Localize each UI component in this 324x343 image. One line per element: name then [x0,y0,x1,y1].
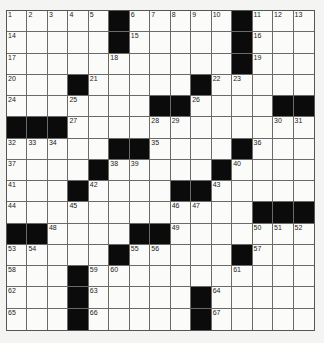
crossword-cell[interactable] [150,266,170,287]
crossword-cell[interactable] [109,181,129,202]
crossword-cell[interactable]: 49 [171,224,191,245]
crossword-cell[interactable] [212,266,232,287]
crossword-cell[interactable] [294,309,314,330]
crossword-cell[interactable] [253,181,273,202]
crossword-cell[interactable]: 14 [7,32,27,53]
crossword-cell[interactable] [89,117,109,138]
crossword-cell[interactable]: 64 [212,287,232,308]
crossword-cell[interactable]: 39 [130,160,150,181]
crossword-cell[interactable] [130,96,150,117]
crossword-cell[interactable] [273,160,293,181]
crossword-cell[interactable]: 38 [109,160,129,181]
crossword-cell[interactable] [48,309,68,330]
crossword-cell[interactable] [150,54,170,75]
crossword-cell[interactable]: 55 [130,245,150,266]
crossword-cell[interactable] [48,181,68,202]
crossword-cell[interactable] [109,202,129,223]
crossword-cell[interactable]: 58 [7,266,27,287]
crossword-cell[interactable] [171,309,191,330]
crossword-cell[interactable] [48,245,68,266]
crossword-cell[interactable] [294,75,314,96]
crossword-cell[interactable]: 60 [109,266,129,287]
crossword-cell[interactable] [89,32,109,53]
crossword-cell[interactable] [48,75,68,96]
crossword-cell[interactable] [232,224,252,245]
crossword-cell[interactable] [109,287,129,308]
crossword-cell[interactable]: 44 [7,202,27,223]
crossword-cell[interactable] [48,266,68,287]
crossword-cell[interactable] [27,75,47,96]
crossword-cell[interactable] [150,181,170,202]
crossword-cell[interactable]: 18 [109,54,129,75]
crossword-cell[interactable] [68,54,88,75]
crossword-cell[interactable]: 53 [7,245,27,266]
crossword-cell[interactable]: 17 [7,54,27,75]
crossword-cell[interactable] [150,309,170,330]
crossword-cell[interactable]: 23 [232,75,252,96]
crossword-cell[interactable] [68,139,88,160]
crossword-cell[interactable] [48,96,68,117]
crossword-cell[interactable]: 67 [212,309,232,330]
crossword-cell[interactable]: 33 [27,139,47,160]
crossword-cell[interactable]: 51 [273,224,293,245]
crossword-cell[interactable] [191,160,211,181]
crossword-cell[interactable]: 40 [232,160,252,181]
crossword-cell[interactable]: 24 [7,96,27,117]
crossword-cell[interactable] [27,160,47,181]
crossword-cell[interactable] [150,75,170,96]
crossword-cell[interactable]: 7 [150,11,170,32]
crossword-cell[interactable] [27,32,47,53]
crossword-cell[interactable] [150,202,170,223]
crossword-cell[interactable] [130,181,150,202]
crossword-cell[interactable]: 52 [294,224,314,245]
crossword-cell[interactable] [150,32,170,53]
crossword-cell[interactable] [171,139,191,160]
crossword-cell[interactable] [253,96,273,117]
crossword-cell[interactable] [232,309,252,330]
crossword-cell[interactable] [191,32,211,53]
crossword-cell[interactable] [171,32,191,53]
crossword-cell[interactable] [27,54,47,75]
crossword-cell[interactable]: 50 [253,224,273,245]
crossword-cell[interactable] [191,54,211,75]
crossword-cell[interactable] [212,139,232,160]
crossword-cell[interactable] [232,202,252,223]
crossword-cell[interactable] [130,54,150,75]
crossword-cell[interactable] [27,287,47,308]
crossword-cell[interactable] [171,245,191,266]
crossword-cell[interactable]: 63 [89,287,109,308]
crossword-cell[interactable] [294,266,314,287]
crossword-cell[interactable]: 43 [212,181,232,202]
crossword-cell[interactable] [27,181,47,202]
crossword-cell[interactable] [253,75,273,96]
crossword-cell[interactable]: 36 [253,139,273,160]
crossword-cell[interactable] [294,181,314,202]
crossword-cell[interactable] [212,245,232,266]
crossword-cell[interactable] [294,245,314,266]
crossword-cell[interactable] [232,181,252,202]
crossword-cell[interactable] [212,32,232,53]
crossword-cell[interactable]: 30 [273,117,293,138]
crossword-cell[interactable]: 21 [89,75,109,96]
crossword-cell[interactable] [253,117,273,138]
crossword-cell[interactable]: 28 [150,117,170,138]
crossword-cell[interactable] [130,75,150,96]
crossword-cell[interactable]: 19 [253,54,273,75]
crossword-cell[interactable]: 5 [89,11,109,32]
crossword-cell[interactable] [294,32,314,53]
crossword-cell[interactable] [150,160,170,181]
crossword-cell[interactable] [253,266,273,287]
crossword-cell[interactable]: 22 [212,75,232,96]
crossword-cell[interactable] [68,160,88,181]
crossword-cell[interactable] [253,160,273,181]
crossword-cell[interactable]: 4 [68,11,88,32]
crossword-cell[interactable] [130,287,150,308]
crossword-cell[interactable] [171,75,191,96]
crossword-cell[interactable] [109,117,129,138]
crossword-cell[interactable] [232,96,252,117]
crossword-cell[interactable] [27,309,47,330]
crossword-cell[interactable]: 25 [68,96,88,117]
crossword-cell[interactable]: 59 [89,266,109,287]
crossword-cell[interactable] [191,266,211,287]
crossword-cell[interactable]: 31 [294,117,314,138]
